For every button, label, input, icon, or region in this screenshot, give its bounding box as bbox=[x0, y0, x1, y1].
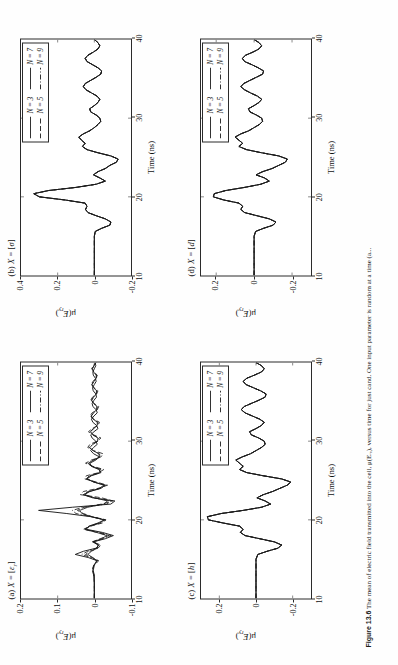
x-tick-mark bbox=[132, 439, 135, 440]
series-line bbox=[80, 362, 108, 598]
legend-label: N = 5 bbox=[36, 419, 45, 436]
y-axis-label: μ(Ery) bbox=[236, 306, 256, 318]
y-tick-mark bbox=[95, 276, 96, 279]
x-tick-label: 10 bbox=[315, 272, 324, 280]
legend-label: N = 7 bbox=[206, 371, 215, 388]
x-tick-label: 30 bbox=[135, 113, 144, 121]
series-line bbox=[72, 362, 111, 598]
legend-label: N = 9 bbox=[36, 371, 45, 388]
legend-item: N = 3 bbox=[206, 96, 215, 138]
legend-item: N = 5 bbox=[36, 96, 45, 138]
y-tick-mark bbox=[132, 599, 133, 602]
legend-label: N = 7 bbox=[26, 371, 35, 388]
subplot-c: (c) X = [h]102030400.20-0.2Time (ns)μ(Er… bbox=[188, 343, 348, 643]
legend-label: N = 5 bbox=[216, 419, 225, 436]
x-tick-mark bbox=[312, 439, 315, 440]
legend-line-swatch bbox=[37, 116, 44, 138]
legend-item: N = 7 bbox=[26, 48, 35, 90]
series-line bbox=[77, 362, 112, 598]
x-tick-label: 30 bbox=[135, 436, 144, 444]
x-tick-label: 10 bbox=[315, 595, 324, 603]
caption-label: Figure 13.6 bbox=[365, 610, 372, 647]
legend-label: N = 3 bbox=[206, 419, 215, 436]
x-tick-mark bbox=[312, 196, 315, 197]
y-tick-mark bbox=[57, 276, 58, 279]
legend-label: N = 3 bbox=[206, 96, 215, 113]
x-axis-label: Time (ns) bbox=[326, 361, 336, 599]
x-tick-label: 10 bbox=[135, 595, 144, 603]
subplot-title-c: (c) X = [h] bbox=[186, 562, 196, 599]
x-tick-label: 20 bbox=[135, 193, 144, 201]
x-tick-mark bbox=[132, 519, 135, 520]
x-tick-mark bbox=[312, 360, 315, 361]
x-tick-label: 30 bbox=[315, 436, 324, 444]
x-axis-label: Time (ns) bbox=[146, 361, 156, 599]
x-tick-mark bbox=[132, 360, 135, 361]
x-tick-label: 20 bbox=[315, 516, 324, 524]
y-tick-mark bbox=[215, 276, 216, 279]
legend-line-swatch bbox=[207, 439, 214, 461]
x-tick-label: 40 bbox=[315, 34, 324, 42]
legend-item: N = 3 bbox=[26, 419, 35, 461]
legend-item: N = 9 bbox=[216, 371, 225, 413]
subplot-title-a: (a) X = [εr] bbox=[6, 561, 18, 599]
x-tick-mark bbox=[312, 37, 315, 38]
subplot-title-d: (d) X = [d] bbox=[186, 239, 196, 276]
y-tick-label: -0.2 bbox=[289, 603, 298, 616]
y-tick-label: -0.2 bbox=[288, 280, 297, 293]
figure-caption: Figure 13.6 The mean of electric field t… bbox=[365, 1, 374, 647]
y-tick-label: -0.2 bbox=[128, 280, 137, 293]
legend-line-swatch bbox=[27, 390, 34, 412]
legend-line-swatch bbox=[207, 116, 214, 138]
y-tick-label: 0 bbox=[90, 280, 99, 284]
legend-label: N = 7 bbox=[206, 48, 215, 65]
x-tick-label: 20 bbox=[135, 516, 144, 524]
legend-line-swatch bbox=[217, 390, 224, 412]
legend-item: N = 7 bbox=[206, 371, 215, 413]
legend-item: N = 9 bbox=[216, 48, 225, 90]
legend-b: N = 3N = 7N = 5N = 9 bbox=[22, 43, 49, 143]
legend-line-swatch bbox=[207, 390, 214, 412]
y-axis-label: μ(Ery) bbox=[56, 629, 76, 641]
legend-label: N = 9 bbox=[216, 371, 225, 388]
y-tick-mark bbox=[256, 599, 257, 602]
y-tick-label: 0 bbox=[90, 603, 99, 607]
legend-item: N = 3 bbox=[206, 419, 215, 461]
legend-c: N = 3N = 7N = 5N = 9 bbox=[202, 366, 229, 466]
figure-body: (a) X = [εr]102030400.20.10-0.1Time (ns)… bbox=[0, 0, 355, 665]
legend-d: N = 3N = 7N = 5N = 9 bbox=[202, 43, 229, 143]
legend-line-swatch bbox=[217, 439, 224, 461]
y-tick-label: 0 bbox=[252, 603, 261, 607]
legend-line-swatch bbox=[217, 67, 224, 89]
legend-item: N = 7 bbox=[206, 48, 215, 90]
legend-line-swatch bbox=[37, 390, 44, 412]
subplot-d: (d) X = [d]102030400.20-0.2Time (ns)μ(Er… bbox=[188, 20, 348, 320]
x-tick-label: 10 bbox=[135, 272, 144, 280]
legend-label: N = 9 bbox=[216, 48, 225, 65]
x-tick-label: 40 bbox=[135, 357, 144, 365]
y-tick-label: 0.2 bbox=[211, 280, 220, 290]
legend-item: N = 7 bbox=[26, 371, 35, 413]
y-tick-label: 0 bbox=[250, 280, 259, 284]
legend-label: N = 9 bbox=[36, 48, 45, 65]
x-axis-label: Time (ns) bbox=[326, 38, 336, 276]
legend-line-swatch bbox=[27, 439, 34, 461]
x-tick-mark bbox=[132, 116, 135, 117]
x-tick-mark bbox=[312, 598, 315, 599]
x-tick-mark bbox=[312, 519, 315, 520]
legend-item: N = 9 bbox=[36, 371, 45, 413]
y-axis-label: μ(Ery) bbox=[236, 629, 256, 641]
legend-line-swatch bbox=[27, 116, 34, 138]
x-tick-mark bbox=[312, 116, 315, 117]
legend-label: N = 5 bbox=[36, 96, 45, 113]
legend-label: N = 3 bbox=[26, 96, 35, 113]
figure-page: (a) X = [εr]102030400.20.10-0.1Time (ns)… bbox=[0, 0, 398, 665]
y-tick-mark bbox=[20, 599, 21, 602]
subplot-b: (b) X = [σ]102030400.40.20-0.2Time (ns)μ… bbox=[8, 20, 168, 320]
y-tick-mark bbox=[57, 599, 58, 602]
legend-line-swatch bbox=[37, 67, 44, 89]
x-axis-label: Time (ns) bbox=[146, 38, 156, 276]
x-tick-label: 30 bbox=[315, 113, 324, 121]
x-tick-label: 40 bbox=[315, 357, 324, 365]
y-tick-mark bbox=[219, 599, 220, 602]
